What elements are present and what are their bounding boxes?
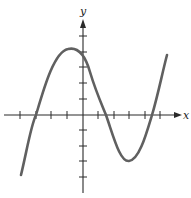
cubic-function-graph: y x bbox=[0, 0, 191, 198]
x-axis-label: x bbox=[183, 109, 190, 122]
y-axis-arrow-icon bbox=[80, 19, 86, 28]
x-axis-arrow-icon bbox=[174, 112, 182, 118]
y-axis-label: y bbox=[79, 5, 87, 18]
